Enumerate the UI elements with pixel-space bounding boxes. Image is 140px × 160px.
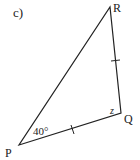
triangle-svg: c) R Q P 40° z — [0, 0, 140, 160]
tick-mark-qr — [111, 60, 120, 61]
tick-mark-pq — [71, 125, 74, 134]
triangle-diagram: c) R Q P 40° z — [0, 0, 140, 160]
vertex-label-q: Q — [124, 112, 133, 126]
vertex-label-p: P — [5, 146, 12, 160]
angle-label-p: 40° — [33, 125, 48, 137]
angle-label-q: z — [109, 105, 114, 116]
vertex-label-r: R — [113, 1, 121, 15]
part-label: c) — [13, 5, 23, 20]
